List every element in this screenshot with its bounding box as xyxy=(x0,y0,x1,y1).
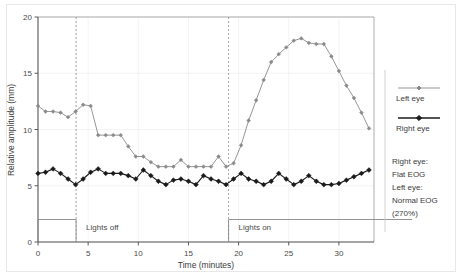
x-tick-label: 15 xyxy=(184,249,193,258)
legend-label-left-eye: Left eye xyxy=(396,94,425,103)
eog-result-notes: Right eye:Flat EOGLeft eye:Normal EOG(27… xyxy=(392,157,438,218)
note-line: Right eye: xyxy=(392,157,428,166)
x-axis-ticks xyxy=(38,242,339,246)
y-tick-label: 0 xyxy=(28,238,33,247)
y-tick-label: 10 xyxy=(23,126,32,135)
eog-line-chart: 051015202530 05101520 Time (minutes) Rel… xyxy=(0,0,462,280)
x-tick-label: 25 xyxy=(284,249,293,258)
chart-legend[interactable]: Left eyeRight eye xyxy=(396,86,440,133)
legend-marker-left-eye xyxy=(417,86,421,90)
x-tick-label: 5 xyxy=(86,249,91,258)
chart-screenshot: 051015202530 05101520 Time (minutes) Rel… xyxy=(0,0,462,280)
x-tick-label: 20 xyxy=(234,249,243,258)
x-tick-label: 10 xyxy=(134,249,143,258)
y-axis-title: Relative amplitude (mm) xyxy=(6,84,16,176)
y-axis-ticks xyxy=(35,17,39,242)
legend-label-right-eye: Right eye xyxy=(396,124,430,133)
x-tick-label: 0 xyxy=(36,249,41,258)
y-tick-label: 15 xyxy=(23,69,32,78)
note-line: (270%) xyxy=(392,209,418,218)
lights-on-label: Lights on xyxy=(239,223,271,232)
x-axis-tick-labels: 051015202530 xyxy=(36,249,344,258)
legend-marker-right-eye xyxy=(416,115,421,120)
y-tick-label: 20 xyxy=(23,13,32,22)
x-tick-label: 30 xyxy=(334,249,343,258)
x-axis-title: Time (minutes) xyxy=(178,260,235,270)
y-axis-tick-labels: 05101520 xyxy=(23,13,32,247)
note-line: Normal EOG xyxy=(392,196,438,205)
note-line: Flat EOG xyxy=(392,170,425,179)
y-tick-label: 5 xyxy=(28,182,33,191)
note-line: Left eye: xyxy=(392,183,423,192)
lights-off-label: Lights off xyxy=(86,223,119,232)
